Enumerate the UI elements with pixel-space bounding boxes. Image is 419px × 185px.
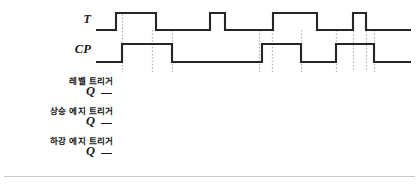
- waveform-label-t: T: [46, 12, 91, 27]
- output-q-dash-falling-edge-trigger: [101, 153, 112, 154]
- waveform-trace-cp: [96, 44, 411, 62]
- output-q-label-level-trigger: Q: [50, 84, 95, 99]
- timing-diagram-figure: T CP 레벨 트리거 Q 상승 에지 트리거 Q 하강 에지 트리거 Q: [0, 0, 419, 185]
- bottom-divider: [4, 176, 415, 177]
- output-q-dash-level-trigger: [101, 93, 112, 94]
- waveform-trace-t: [96, 13, 411, 30]
- output-q-dash-rising-edge-trigger: [101, 123, 112, 124]
- waveform-label-cp: CP: [42, 42, 91, 57]
- output-q-label-rising-edge-trigger: Q: [50, 114, 95, 129]
- output-q-label-falling-edge-trigger: Q: [50, 144, 95, 159]
